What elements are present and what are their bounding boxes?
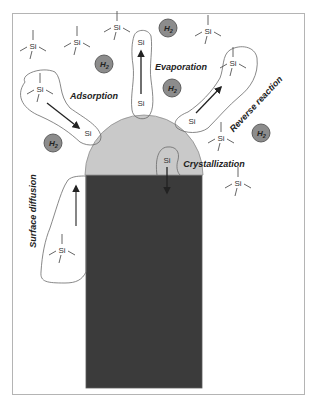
h2-molecule: H2: [44, 134, 62, 152]
svg-text:Si: Si: [73, 38, 80, 47]
silane-molecule: Si: [20, 30, 46, 59]
si-atom-evaporating: Si: [137, 99, 144, 108]
surface-diffusion-outline: [41, 176, 86, 283]
silane-molecule: Si: [49, 234, 75, 263]
label-crystallization: Crystallization: [183, 159, 245, 169]
label-surface-diffusion: Surface diffusion: [28, 174, 38, 248]
svg-text:Si: Si: [217, 134, 224, 143]
svg-text:Si: Si: [36, 85, 43, 94]
silane-molecule: Si: [225, 167, 251, 196]
si-atom-evaporated: Si: [137, 38, 144, 47]
svg-text:Si: Si: [113, 23, 120, 32]
svg-text:Si: Si: [234, 179, 241, 188]
nanowire-pillar: [86, 175, 202, 388]
silane-molecule: Si: [195, 15, 221, 44]
si-atom-reverse: Si: [188, 117, 195, 126]
svg-text:Si: Si: [229, 59, 236, 68]
label-evaporation: Evaporation: [155, 62, 208, 72]
reverse-reaction-arrow: [196, 87, 221, 113]
si-atom-crystallizing: Si: [163, 156, 170, 165]
h2-molecule: H2: [159, 19, 177, 37]
vls-growth-diagram: Si Si Si Si Si Si Si Si Si Si Si Si Si S…: [0, 0, 318, 405]
label-adsorption: Adsorption: [69, 91, 118, 101]
silane-molecule: Si: [104, 11, 130, 40]
h2-molecule: H2: [95, 55, 113, 73]
silane-molecule: Si: [64, 26, 90, 55]
h2-molecule: H2: [163, 79, 181, 97]
svg-text:Si: Si: [58, 246, 65, 255]
silane-molecule: Si: [27, 73, 53, 102]
si-atom-adsorbed: Si: [84, 129, 91, 138]
h2-molecule: H2: [252, 124, 270, 142]
adsorption-arrow: [47, 103, 79, 128]
svg-text:Si: Si: [204, 27, 211, 36]
svg-text:Si: Si: [29, 42, 36, 51]
